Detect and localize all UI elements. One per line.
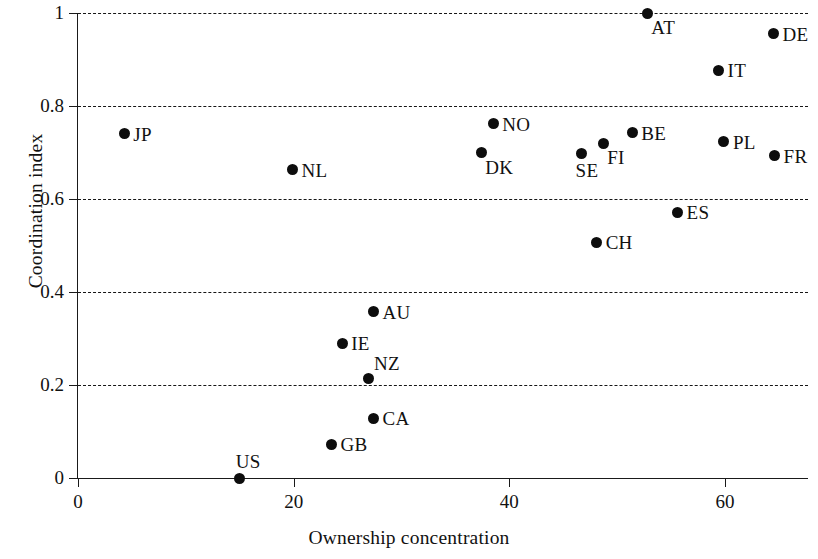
- x-axis-tick-label: 60: [715, 492, 734, 511]
- data-point-marker: [368, 413, 379, 424]
- x-axis-tick: [78, 478, 79, 487]
- data-point-label: CA: [382, 409, 409, 428]
- data-point-marker: [627, 127, 638, 138]
- data-point-label: FI: [607, 148, 625, 167]
- data-point-marker: [363, 373, 374, 384]
- data-point-label: JP: [133, 125, 152, 144]
- x-axis-tick: [509, 478, 510, 487]
- data-point-marker: [119, 128, 130, 139]
- y-axis-tick: [69, 106, 78, 107]
- data-point-label: NZ: [374, 354, 400, 373]
- x-axis-title: Ownership concentration: [0, 527, 818, 549]
- data-point-label: DE: [782, 25, 808, 44]
- data-point-label: IE: [351, 334, 370, 353]
- gridline-y: [78, 106, 808, 107]
- x-axis-tick-label: 20: [284, 492, 303, 511]
- x-axis-tick: [294, 478, 295, 487]
- data-point-marker: [368, 306, 379, 317]
- y-axis-tick-label: 0.4: [0, 282, 64, 301]
- y-axis-tick-label: 0: [0, 468, 64, 487]
- y-axis-tick: [69, 292, 78, 293]
- gridline-y: [78, 292, 808, 293]
- data-point-marker: [234, 473, 245, 484]
- data-point-label: PL: [733, 133, 756, 152]
- data-point-label: IT: [728, 61, 747, 80]
- data-point-marker: [337, 338, 348, 349]
- data-point-marker: [713, 65, 724, 76]
- data-point-marker: [326, 439, 337, 450]
- data-point-label: SE: [576, 161, 599, 180]
- data-point-marker: [718, 136, 729, 147]
- data-point-marker: [769, 150, 780, 161]
- gridline-y: [78, 199, 808, 200]
- plot-area: ATDEITNOJPBEPLFIDKSEFRNLESCHAUIENZCAGBUS: [78, 13, 808, 478]
- y-axis-tick: [69, 385, 78, 386]
- data-point-label: NO: [502, 115, 530, 134]
- data-point-marker: [591, 237, 602, 248]
- y-axis-tick-label: 0.2: [0, 375, 64, 394]
- y-axis-tick: [69, 199, 78, 200]
- x-axis-tick-label: 0: [73, 492, 83, 511]
- data-point-marker: [768, 28, 779, 39]
- scatter-plot-figure: ATDEITNOJPBEPLFIDKSEFRNLESCHAUIENZCAGBUS…: [0, 0, 818, 559]
- x-axis-tick: [725, 478, 726, 487]
- x-axis-line: [78, 478, 808, 479]
- gridline-y: [78, 13, 808, 14]
- y-axis-tick-label: 0.6: [0, 189, 64, 208]
- gridline-y: [78, 385, 808, 386]
- data-point-marker: [672, 207, 683, 218]
- data-point-label: NL: [302, 161, 328, 180]
- y-axis-tick: [69, 13, 78, 14]
- data-point-label: BE: [641, 124, 666, 143]
- data-point-label: ES: [687, 203, 710, 222]
- y-axis-tick: [69, 478, 78, 479]
- data-point-marker: [488, 118, 499, 129]
- data-point-marker: [287, 164, 298, 175]
- data-point-label: AT: [651, 18, 675, 37]
- y-axis-tick-label: 0.8: [0, 96, 64, 115]
- data-point-label: CH: [606, 233, 633, 252]
- data-point-marker: [576, 148, 587, 159]
- data-point-label: DK: [485, 158, 513, 177]
- data-point-label: US: [236, 452, 261, 471]
- data-point-label: GB: [340, 435, 367, 454]
- data-point-label: FR: [784, 147, 808, 166]
- y-axis-tick-label: 1: [0, 3, 64, 22]
- data-point-label: AU: [382, 303, 410, 322]
- x-axis-tick-label: 40: [500, 492, 519, 511]
- y-axis-title: Coordination index: [25, 81, 47, 341]
